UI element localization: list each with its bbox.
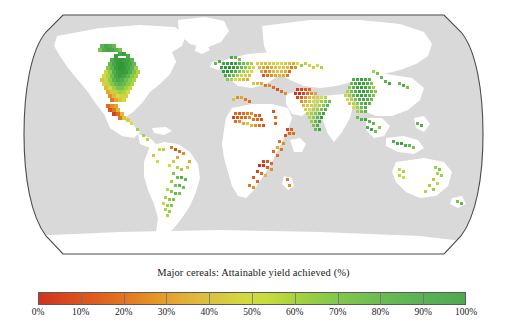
colorbar-label-60: 60% [286, 307, 303, 317]
colorbar-tick-90 [423, 292, 424, 305]
legend-title: Major cereals: Attainable yield achieved… [0, 267, 507, 278]
figure-container: Major cereals: Attainable yield achieved… [0, 0, 507, 335]
colorbar-label-70: 70% [329, 307, 346, 317]
colorbar-label-30: 30% [158, 307, 175, 317]
colorbar-tick-60 [295, 292, 296, 305]
colorbar-label-40: 40% [200, 307, 217, 317]
colorbar-tick-80 [380, 292, 381, 305]
colorbar-label-80: 80% [372, 307, 389, 317]
colorbar-label-100: 100% [455, 307, 477, 317]
colorbar-label-20: 20% [115, 307, 132, 317]
colorbar-label-10: 10% [72, 307, 89, 317]
colorbar-label-0: 0% [32, 307, 45, 317]
legend-block: Major cereals: Attainable yield achieved… [0, 262, 507, 335]
map-body [0, 0, 507, 262]
colorbar-tick-40 [209, 292, 210, 305]
colorbar-tick-50 [252, 292, 253, 305]
colorbar-tick-20 [124, 292, 125, 305]
world-map-panel [0, 0, 507, 262]
colorbar-wrapper [38, 292, 466, 305]
colorbar-tick-70 [338, 292, 339, 305]
colorbar-label-90: 90% [414, 307, 431, 317]
colorbar-tick-labels: 0% 10% 20% 30% 40% 50% 60% 70% 80% 90% 1… [38, 307, 466, 323]
colorbar-tick-30 [166, 292, 167, 305]
world-map-svg [0, 0, 507, 262]
colorbar-label-50: 50% [243, 307, 260, 317]
colorbar-tick-10 [81, 292, 82, 305]
